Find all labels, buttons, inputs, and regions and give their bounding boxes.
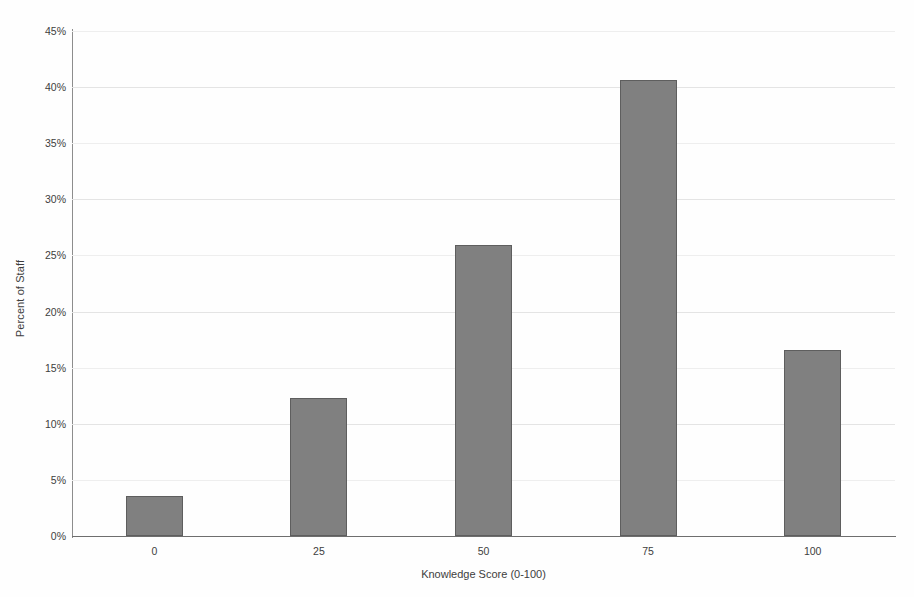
y-tick-label-25pct: 25% (26, 249, 66, 261)
bar-chart: Percent of Staff 0%5%10%15%20%25%30%35%4… (0, 0, 914, 597)
y-tick-label-0pct: 0% (26, 530, 66, 542)
y-tick-label-10pct: 10% (26, 418, 66, 430)
gridline (72, 143, 895, 144)
x-tick-label-75: 75 (618, 545, 678, 557)
y-tick-label-20pct: 20% (26, 306, 66, 318)
y-tick-label-45pct: 45% (26, 25, 66, 37)
bar-100 (784, 350, 841, 536)
y-tick-label-40pct: 40% (26, 81, 66, 93)
gridline (72, 31, 895, 32)
x-tick-label-50: 50 (454, 545, 514, 557)
y-tick-label-15pct: 15% (26, 362, 66, 374)
x-tick-label-25: 25 (289, 545, 349, 557)
x-axis-title: Knowledge Score (0-100) (72, 568, 895, 580)
x-tick-label-0: 0 (124, 545, 184, 557)
bar-25 (290, 398, 347, 536)
y-tick-label-30pct: 30% (26, 193, 66, 205)
gridline (72, 199, 895, 200)
y-axis-tick-labels: 0%5%10%15%20%25%30%35%40%45% (26, 31, 66, 536)
y-tick-label-5pct: 5% (26, 474, 66, 486)
x-axis-line (72, 536, 896, 537)
gridline (72, 87, 895, 88)
x-tick-label-100: 100 (783, 545, 843, 557)
plot-area (72, 31, 895, 536)
y-tick-label-35pct: 35% (26, 137, 66, 149)
bar-50 (455, 245, 512, 536)
bar-0 (126, 496, 183, 536)
bar-75 (620, 80, 677, 536)
x-axis-tick-labels: 0255075100 (72, 545, 895, 563)
